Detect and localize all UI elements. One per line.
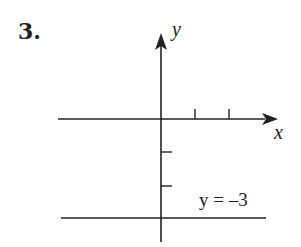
x-axis (58, 109, 278, 125)
y-axis-label: y (170, 18, 181, 41)
line-label: y = –3 (199, 189, 248, 210)
graph: y x y = –3 (0, 0, 301, 247)
x-axis-label: x (273, 121, 283, 143)
y-axis (155, 33, 172, 242)
